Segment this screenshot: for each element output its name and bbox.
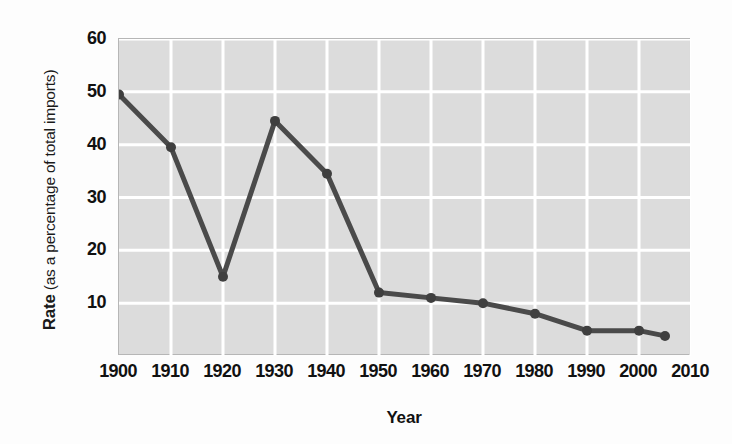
data-point bbox=[426, 293, 436, 303]
data-point bbox=[634, 326, 644, 336]
x-axis-tick-labels: 1900191019201930194019501960197019801990… bbox=[0, 362, 732, 388]
data-point bbox=[530, 309, 540, 319]
x-axis-tick-label: 1930 bbox=[244, 362, 304, 380]
x-axis-tick-label: 2000 bbox=[608, 362, 668, 380]
data-point bbox=[218, 272, 228, 282]
plot-area bbox=[118, 38, 690, 355]
data-point bbox=[270, 116, 280, 126]
data-line bbox=[119, 94, 665, 335]
y-axis-tick-label: 20 bbox=[48, 240, 106, 258]
data-point bbox=[582, 326, 592, 336]
x-axis-label: Year bbox=[118, 408, 690, 428]
x-axis-tick-label: 1990 bbox=[556, 362, 616, 380]
y-axis-tick-label: 50 bbox=[48, 82, 106, 100]
data-point bbox=[166, 142, 176, 152]
x-axis-tick-label: 2010 bbox=[660, 362, 720, 380]
x-axis-tick-label: 1920 bbox=[192, 362, 252, 380]
y-axis-tick-label: 60 bbox=[48, 29, 106, 47]
x-axis-tick-label: 1900 bbox=[88, 362, 148, 380]
data-point bbox=[478, 298, 488, 308]
y-axis-tick-label: 30 bbox=[48, 188, 106, 206]
x-axis-tick-label: 1940 bbox=[296, 362, 356, 380]
x-axis-tick-label: 1950 bbox=[348, 362, 408, 380]
gridlines bbox=[119, 39, 691, 356]
x-axis-tick-label: 1910 bbox=[140, 362, 200, 380]
data-point bbox=[322, 169, 332, 179]
x-axis-tick-label: 1960 bbox=[400, 362, 460, 380]
y-axis-tick-label: 10 bbox=[48, 293, 106, 311]
line-chart-svg bbox=[119, 39, 691, 356]
data-point bbox=[660, 331, 670, 341]
x-axis-tick-label: 1980 bbox=[504, 362, 564, 380]
data-point bbox=[374, 288, 384, 298]
x-axis-tick-label: 1970 bbox=[452, 362, 512, 380]
chart-figure: Rate (as a percentage of total imports) … bbox=[0, 0, 732, 444]
y-axis-tick-label: 40 bbox=[48, 135, 106, 153]
